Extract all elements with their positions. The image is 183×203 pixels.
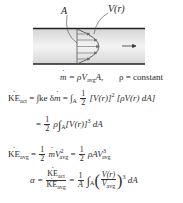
- ke-actual-equation: KEact = ∫ke δm = ∫A 12 [V(r)]2 [ρV(r) dA…: [8, 90, 155, 107]
- velocity-label: V(r): [108, 3, 125, 15]
- kinetic-energy-correction-factor-equation: α = KEact KEavg = 1A ∫A(V(r)Vavg)3 dA: [30, 170, 138, 191]
- area-label: A: [60, 5, 68, 16]
- mass-flow-equation: m = ρVavgA,: [60, 72, 103, 85]
- density-constant-condition: ρ = constant: [119, 72, 163, 82]
- mass-flow-symbol: m: [60, 72, 67, 82]
- ke-ratio-fraction: KEact KEavg: [46, 170, 66, 191]
- pipe-velocity-profile-diagram: A V(r): [0, 0, 183, 68]
- ke-actual-simplified-equation: = 12 ρ∫A[V(r)]3 dA: [36, 116, 103, 133]
- ke-average-equation: KEavg = 12 mV2avg = 12 ρAV3avg: [8, 146, 111, 163]
- one-half-fraction: 12: [80, 90, 86, 107]
